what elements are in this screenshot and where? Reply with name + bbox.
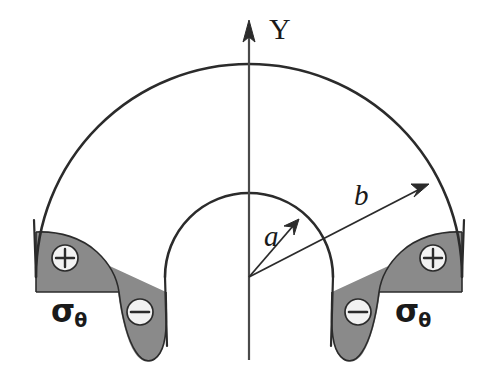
- y-axis-group: [243, 20, 255, 360]
- outer-arc-right-flank: [462, 220, 464, 277]
- outer-arc-left-flank: [34, 220, 36, 277]
- stress-label-right: σθ: [395, 296, 431, 330]
- y-axis-label: Y: [269, 14, 291, 44]
- radius-arrow-b-head-icon: [411, 184, 429, 197]
- stress-subscript-left: θ: [74, 309, 87, 331]
- outer-radius-label-b: b: [354, 181, 369, 210]
- stress-symbol-left: σ: [51, 293, 75, 329]
- inner-radius-label-a: a: [264, 222, 279, 251]
- stress-symbol-right: σ: [395, 293, 419, 329]
- stress-subscript-right: θ: [418, 309, 431, 331]
- stress-label-left: σθ: [51, 296, 87, 330]
- stress-distribution-diagram: Y a b σθ σθ: [0, 0, 481, 379]
